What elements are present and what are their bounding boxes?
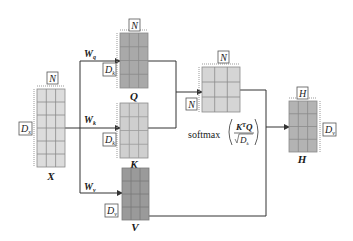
svg-text:N: N <box>130 20 139 31</box>
svg-text:Q: Q <box>130 90 138 102</box>
svg-text:H: H <box>297 153 307 165</box>
svg-text:Wv: Wv <box>84 181 96 193</box>
attention-matrix: N N <box>186 51 240 112</box>
svg-text:Wk: Wk <box>84 114 96 126</box>
matrix-v: Dv V Wv <box>84 168 149 233</box>
dim-label-n: N <box>48 73 57 84</box>
svg-text:Wq: Wq <box>84 48 96 60</box>
svg-text:KTQ: KTQ <box>235 122 253 132</box>
svg-text:N: N <box>219 52 228 63</box>
connectors <box>65 61 289 216</box>
matrix-h: H Dv H <box>289 87 336 165</box>
svg-text:softmax: softmax <box>188 129 220 140</box>
label-x: X <box>46 170 55 182</box>
matrix-k: Dk K Wk <box>84 103 148 170</box>
softmax-formula: softmax KTQ Dk <box>188 119 258 146</box>
svg-text:Dk: Dk <box>239 135 250 146</box>
svg-text:H: H <box>298 88 307 99</box>
svg-text:N: N <box>187 99 196 110</box>
svg-text:V: V <box>131 221 140 233</box>
self-attention-diagram: N Dx X N Dk Q Wq Dk K Wk <box>0 0 353 241</box>
matrix-x: N Dx X <box>19 72 65 182</box>
